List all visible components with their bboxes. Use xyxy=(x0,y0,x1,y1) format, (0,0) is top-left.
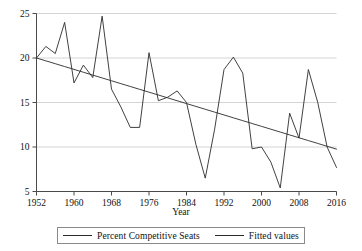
x-tick-label-2016: 2016 xyxy=(327,198,346,208)
series-line-percent-competitive-seats xyxy=(37,16,337,188)
legend-label-fitted-values: Fitted values xyxy=(249,231,299,241)
data-series-layer xyxy=(37,16,337,188)
y-tick-label-10: 10 xyxy=(0,142,30,152)
chart-container: 5101520251952196019681976198419922000200… xyxy=(0,0,362,251)
y-axis-ticks xyxy=(33,14,37,192)
x-tick-label-1992: 1992 xyxy=(215,198,234,208)
y-tick-label-15: 15 xyxy=(0,98,30,108)
legend-label-percent-competitive-seats: Percent Competitive Seats xyxy=(97,231,200,241)
x-tick-label-1960: 1960 xyxy=(65,198,84,208)
legend-entry-series-1: Fitted values xyxy=(210,231,299,241)
x-axis-ticks xyxy=(37,192,337,196)
y-tick-label-5: 5 xyxy=(0,187,30,197)
x-tick-label-2008: 2008 xyxy=(290,198,309,208)
series-line-fitted-values xyxy=(37,58,337,149)
y-tick-label-20: 20 xyxy=(0,53,30,63)
x-tick-label-2000: 2000 xyxy=(252,198,271,208)
legend-entry-series-0: Percent Competitive Seats xyxy=(58,231,200,241)
x-tick-label-1984: 1984 xyxy=(177,198,196,208)
x-axis-title: Year xyxy=(0,207,362,217)
legend-line-swatch-fitted-values xyxy=(215,235,244,236)
x-tick-label-1976: 1976 xyxy=(140,198,159,208)
y-tick-label-25: 25 xyxy=(0,9,30,19)
legend-line-swatch-percent-competitive-seats xyxy=(63,235,92,236)
x-tick-label-1952: 1952 xyxy=(27,198,46,208)
chart-legend: Percent Competitive Seats Fitted values xyxy=(57,227,305,244)
x-tick-label-1968: 1968 xyxy=(102,198,121,208)
